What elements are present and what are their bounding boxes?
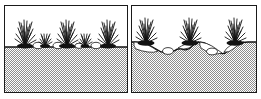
soil-mass-icon: [5, 47, 127, 92]
eroded-soil-scene: [132, 6, 256, 92]
figure-canvas: [0, 0, 261, 99]
uneroded-soil-scene: [5, 6, 127, 92]
uneroded-soil-panel: [4, 5, 128, 93]
eroded-soil-panel: [131, 5, 257, 93]
